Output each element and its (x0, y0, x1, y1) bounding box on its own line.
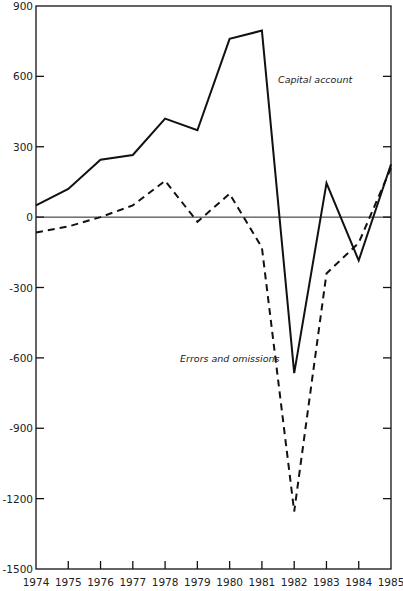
x-tick-label: 1985 (378, 576, 403, 588)
x-axis-ticks: 1974197519761977197819791980198119821983… (23, 561, 403, 588)
capital-account-label: Capital account (278, 74, 353, 85)
x-tick-label: 1974 (23, 576, 50, 588)
y-tick-label: -300 (9, 282, 33, 294)
y-tick-label: 900 (13, 0, 33, 12)
plot-frame (36, 6, 391, 569)
x-tick-label: 1984 (345, 576, 372, 588)
y-tick-label: 0 (26, 211, 33, 223)
line-chart: 9006003000-300-600-900-1200-1500 1974197… (0, 0, 403, 591)
x-tick-label: 1975 (55, 576, 82, 588)
x-tick-label: 1976 (87, 576, 114, 588)
x-tick-label: 1978 (152, 576, 179, 588)
x-tick-label: 1982 (281, 576, 308, 588)
x-tick-label: 1977 (119, 576, 146, 588)
x-tick-label: 1979 (184, 576, 211, 588)
y-tick-label: -1500 (2, 563, 33, 575)
y-tick-label: -900 (9, 422, 33, 434)
x-tick-label: 1983 (313, 576, 340, 588)
y-tick-label: 300 (13, 141, 33, 153)
y-tick-label: -600 (9, 352, 33, 364)
x-tick-label: 1981 (249, 576, 276, 588)
errors-omissions-line (36, 168, 391, 512)
errors-omissions-label: Errors and omissions (180, 353, 279, 364)
y-axis-ticks: 9006003000-300-600-900-1200-1500 (2, 0, 391, 575)
y-tick-label: -1200 (2, 493, 33, 505)
x-tick-label: 1980 (216, 576, 243, 588)
y-tick-label: 600 (13, 70, 33, 82)
